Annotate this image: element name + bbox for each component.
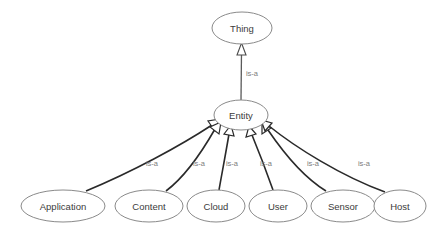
edge-application-to-entity[interactable]: is-a: [86, 119, 220, 191]
node-sensor[interactable]: Sensor: [311, 190, 375, 222]
edge-label-is-a: is-a: [260, 159, 273, 168]
node-label: Thing: [230, 23, 254, 34]
edge-host-to-entity[interactable]: is-a: [261, 120, 385, 192]
node-entity[interactable]: Entity: [214, 100, 268, 130]
edge-label-is-a: is-a: [193, 159, 206, 168]
node-thing[interactable]: Thing: [212, 12, 272, 44]
node-application[interactable]: Application: [21, 190, 105, 222]
edge-entity-to-thing[interactable]: is-a: [237, 43, 259, 100]
node-user[interactable]: User: [249, 190, 307, 222]
node-host[interactable]: Host: [374, 190, 426, 222]
node-label: User: [268, 201, 288, 212]
nodes-layer: Thing Entity Application Content Cloud U: [21, 12, 426, 222]
edge-cloud-to-entity[interactable]: is-a: [219, 125, 239, 190]
edge-label-is-a: is-a: [246, 69, 259, 78]
node-label: Entity: [229, 110, 253, 121]
node-label: Content: [132, 201, 166, 212]
ontology-diagram-canvas: is-a is-a is-a is-a: [0, 0, 436, 232]
edge-label-is-a: is-a: [358, 159, 371, 168]
edge-content-to-entity[interactable]: is-a: [166, 122, 221, 191]
node-label: Sensor: [328, 201, 358, 212]
edge-user-to-entity[interactable]: is-a: [246, 126, 273, 190]
node-label: Host: [390, 201, 410, 212]
node-label: Application: [40, 201, 86, 212]
node-content[interactable]: Content: [115, 190, 183, 222]
edge-sensor-to-entity[interactable]: is-a: [262, 122, 326, 191]
node-label: Cloud: [204, 201, 229, 212]
edge-label-is-a: is-a: [146, 159, 159, 168]
node-cloud[interactable]: Cloud: [187, 190, 245, 222]
edge-line: [241, 52, 242, 100]
class-hierarchy-graph: is-a is-a is-a is-a: [0, 0, 436, 232]
generalization-arrowhead-icon: [237, 43, 246, 55]
edge-label-is-a: is-a: [226, 159, 239, 168]
